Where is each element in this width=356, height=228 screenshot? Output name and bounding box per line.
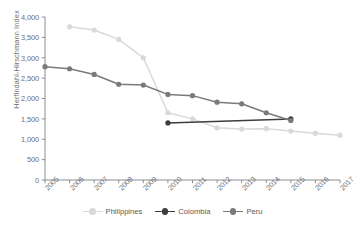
series-philippines bbox=[67, 24, 343, 138]
legend-item-peru[interactable]: Peru bbox=[223, 207, 262, 216]
legend-label-peru: Peru bbox=[246, 207, 262, 216]
point-peru-2008 bbox=[116, 82, 121, 87]
series-colombia bbox=[165, 116, 293, 125]
y-tick-2000: 2,000 bbox=[5, 94, 39, 103]
y-tick-3000: 3,000 bbox=[5, 54, 39, 63]
y-tick-4000: 4,000 bbox=[5, 13, 39, 22]
point-philippines-2010 bbox=[165, 110, 170, 115]
point-philippines-2009 bbox=[141, 55, 146, 60]
y-tick-2500: 2,500 bbox=[5, 74, 39, 83]
legend-item-philippines[interactable]: Philippines bbox=[83, 207, 143, 216]
point-colombia-2010 bbox=[165, 120, 170, 125]
point-philippines-2007 bbox=[92, 27, 97, 32]
point-philippines-2016 bbox=[313, 131, 318, 136]
point-peru-2015 bbox=[288, 118, 293, 123]
point-peru-2005 bbox=[42, 64, 47, 69]
y-tick-1000: 1,000 bbox=[5, 135, 39, 144]
point-peru-2010 bbox=[165, 92, 170, 97]
y-tick-1500: 1,500 bbox=[5, 115, 39, 124]
point-peru-2009 bbox=[141, 82, 146, 87]
point-peru-2013 bbox=[239, 101, 244, 106]
legend-label-colombia: Colombia bbox=[178, 207, 210, 216]
y-tick-0: 0 bbox=[5, 176, 39, 185]
point-philippines-2012 bbox=[214, 125, 219, 130]
legend-label-philippines: Philippines bbox=[106, 207, 143, 216]
point-peru-2011 bbox=[190, 93, 195, 98]
legend-swatch-peru-icon bbox=[223, 208, 243, 216]
point-peru-2012 bbox=[214, 100, 219, 105]
y-tick-3500: 3,500 bbox=[5, 33, 39, 42]
point-philippines-2014 bbox=[264, 126, 269, 131]
y-tick-500: 500 bbox=[5, 155, 39, 164]
point-peru-2006 bbox=[67, 66, 72, 71]
legend-item-colombia[interactable]: Colombia bbox=[155, 207, 210, 216]
point-philippines-2013 bbox=[239, 126, 244, 131]
point-philippines-2017 bbox=[337, 133, 342, 138]
point-philippines-2015 bbox=[288, 129, 293, 134]
point-philippines-2008 bbox=[116, 37, 121, 42]
point-peru-2007 bbox=[92, 72, 97, 77]
legend-swatch-philippines-icon bbox=[83, 208, 103, 216]
point-philippines-2011 bbox=[190, 116, 195, 121]
legend-swatch-colombia-icon bbox=[155, 208, 175, 216]
point-philippines-2006 bbox=[67, 24, 72, 29]
point-peru-2014 bbox=[264, 110, 269, 115]
chart-legend: Philippines Colombia Peru bbox=[0, 207, 345, 216]
